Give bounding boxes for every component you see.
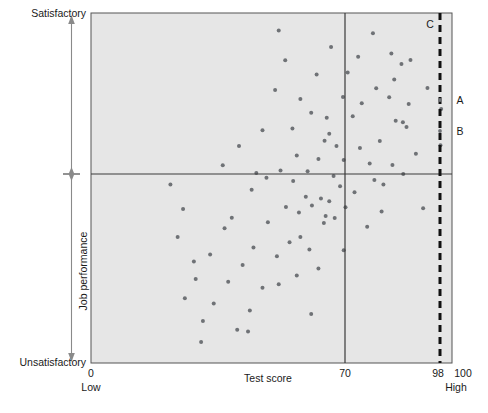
data-point (201, 319, 205, 323)
data-point (374, 86, 378, 90)
data-point (341, 95, 345, 99)
data-point (264, 176, 268, 180)
data-point (266, 220, 270, 224)
data-point (288, 240, 292, 244)
data-point (390, 163, 394, 167)
data-point (346, 71, 350, 75)
data-point (275, 254, 279, 258)
data-point (290, 127, 294, 131)
data-point (392, 78, 396, 82)
data-point (297, 211, 301, 215)
data-point (387, 95, 391, 99)
data-point (277, 29, 281, 33)
data-point (304, 195, 308, 199)
data-point (226, 280, 230, 284)
data-point (260, 286, 264, 290)
x-axis-low-label: Low (81, 381, 101, 393)
data-point (372, 178, 376, 182)
x-tick-70: 70 (339, 367, 351, 379)
data-point (283, 58, 287, 62)
data-point (168, 183, 172, 187)
y-axis-top-label: Satisfactory (31, 7, 87, 19)
data-point (322, 221, 326, 225)
data-point (316, 157, 320, 161)
data-point (389, 52, 393, 56)
data-point (298, 97, 302, 101)
data-point (316, 267, 320, 271)
data-point (381, 183, 385, 187)
data-point (360, 101, 364, 105)
y-axis-inner-arrow-down (69, 174, 75, 181)
data-point (235, 328, 239, 332)
data-point (394, 119, 398, 123)
data-point (250, 188, 254, 192)
x-tick-0: 0 (88, 367, 94, 379)
annotation-a: A (456, 94, 463, 106)
data-point (183, 296, 187, 300)
x-tick-100: 100 (454, 367, 472, 379)
data-point (425, 86, 429, 90)
data-point (408, 58, 412, 62)
data-point (399, 62, 403, 66)
chart-canvas: Satisfactory Unsatisfactory Job performa… (0, 0, 488, 413)
data-point (199, 340, 203, 344)
data-point (319, 197, 323, 201)
data-point (192, 260, 196, 264)
data-point (405, 125, 409, 129)
data-point (356, 55, 360, 59)
data-point (251, 246, 255, 250)
data-point (338, 184, 342, 188)
annotation-c: C (426, 18, 434, 30)
y-axis-bottom-label: Unsatisfactory (19, 356, 86, 368)
data-point (323, 139, 327, 143)
data-point (181, 207, 185, 211)
data-point (310, 204, 314, 208)
data-point (307, 248, 311, 252)
y-axis-inner-arrow-up (69, 167, 75, 174)
data-point (351, 114, 355, 118)
scatter-plot-figure: Satisfactory Unsatisfactory Job performa… (0, 0, 488, 413)
data-point (378, 139, 382, 143)
annotation-b: B (456, 125, 463, 137)
data-point (295, 274, 299, 278)
data-point (334, 144, 338, 148)
data-point (284, 205, 288, 209)
data-point (194, 277, 198, 281)
x-axis-high-label: High (445, 381, 467, 393)
data-point (414, 152, 418, 156)
data-point (208, 253, 212, 257)
data-point (315, 73, 319, 77)
x-tick-98: 98 (432, 367, 444, 379)
data-point (329, 45, 333, 49)
data-point (401, 120, 405, 124)
data-point (306, 169, 310, 173)
data-point (260, 128, 264, 132)
data-point (353, 190, 357, 194)
data-point (230, 216, 234, 220)
data-point (358, 146, 362, 150)
data-point (325, 116, 329, 120)
data-point (365, 225, 369, 229)
data-point (212, 302, 216, 306)
data-point (295, 153, 299, 157)
data-point (421, 206, 425, 210)
data-point (248, 309, 252, 313)
data-point (241, 263, 245, 267)
data-point (371, 31, 375, 35)
data-point (221, 163, 225, 167)
data-point (309, 111, 313, 115)
data-point (273, 88, 277, 92)
plot-area-background (91, 13, 452, 363)
data-point (246, 330, 250, 334)
data-point (324, 214, 328, 218)
data-point (298, 235, 302, 239)
annotation-a-point (438, 98, 442, 102)
data-point (380, 209, 384, 213)
data-point (176, 235, 180, 239)
x-axis-title: Test score (244, 372, 292, 384)
data-point (237, 144, 241, 148)
data-point (332, 174, 336, 178)
annotation-b-point (438, 129, 442, 133)
data-point (291, 179, 295, 183)
data-point (327, 132, 331, 136)
